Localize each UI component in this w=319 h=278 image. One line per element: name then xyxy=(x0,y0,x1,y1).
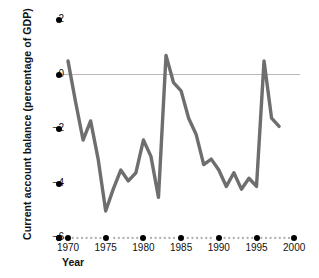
x-axis-minor-dot xyxy=(90,237,92,239)
x-tick-label-2000: 2000 xyxy=(274,243,314,253)
x-axis-minor-dot xyxy=(246,237,248,239)
x-axis-minor-dot xyxy=(131,237,133,239)
x-tick-dot-1995 xyxy=(254,235,260,241)
x-tick-label-1980: 1980 xyxy=(123,243,163,253)
x-tick-dot-1970 xyxy=(65,235,71,241)
x-axis-minor-dot xyxy=(283,237,285,239)
x-tick-label-1990: 1990 xyxy=(199,243,239,253)
x-tick-label-1995: 1995 xyxy=(237,243,277,253)
x-axis-minor-dot xyxy=(154,237,156,239)
x-axis-minor-dot xyxy=(81,237,83,239)
x-axis-minor-dot xyxy=(274,237,276,239)
x-axis-minor-dot xyxy=(136,237,138,239)
x-axis-minor-dot xyxy=(159,237,161,239)
x-axis-minor-dot xyxy=(279,237,281,239)
x-axis-minor-dot xyxy=(150,237,152,239)
x-axis-minor-dot xyxy=(260,237,262,239)
data-line-current-account-balance xyxy=(68,55,279,211)
x-axis-minor-dot xyxy=(205,237,207,239)
x-axis-minor-dot xyxy=(72,237,74,239)
x-axis-minor-dot xyxy=(113,237,115,239)
y-tick-dot xyxy=(56,17,62,23)
x-axis-minor-dot xyxy=(85,237,87,239)
x-axis-minor-dot xyxy=(164,237,166,239)
x-axis-minor-dot xyxy=(210,237,212,239)
x-axis-minor-dot xyxy=(200,237,202,239)
x-axis-minor-dot xyxy=(168,237,170,239)
x-axis-title: Year xyxy=(62,256,84,268)
x-axis-minor-dot xyxy=(76,237,78,239)
x-axis-minor-dot xyxy=(269,237,271,239)
x-axis-minor-dot xyxy=(223,237,225,239)
x-axis-minor-dot xyxy=(196,237,198,239)
x-axis-minor-dot xyxy=(228,237,230,239)
x-tick-label-1970: 1970 xyxy=(48,243,88,253)
x-axis-minor-dot xyxy=(122,237,124,239)
x-axis-minor-dot xyxy=(127,237,129,239)
x-tick-dot-1990 xyxy=(216,235,222,241)
x-tick-dot-1975 xyxy=(103,235,109,241)
x-axis-minor-dot xyxy=(99,237,101,239)
x-tick-label-1975: 1975 xyxy=(86,243,126,253)
x-axis-minor-dot xyxy=(233,237,235,239)
x-tick-label-1985: 1985 xyxy=(161,243,201,253)
x-axis-minor-dot xyxy=(95,237,97,239)
x-axis-minor-dot xyxy=(118,237,120,239)
x-axis-minor-dot xyxy=(265,237,267,239)
y-tick-dot xyxy=(56,72,62,78)
x-axis-minor-dot xyxy=(288,237,290,239)
chart-container: 20−2−4−6 1970197519801985199019952000 Cu… xyxy=(0,0,319,278)
x-axis-minor-dot xyxy=(242,237,244,239)
x-axis-minor-dot xyxy=(191,237,193,239)
x-axis-minor-dot xyxy=(237,237,239,239)
x-axis-origin-dot xyxy=(56,235,62,241)
y-tick-dot xyxy=(56,181,62,187)
x-axis-minor-dot xyxy=(173,237,175,239)
x-axis-minor-dot xyxy=(187,237,189,239)
y-axis-title: Current account balance (percentage of G… xyxy=(21,4,33,244)
